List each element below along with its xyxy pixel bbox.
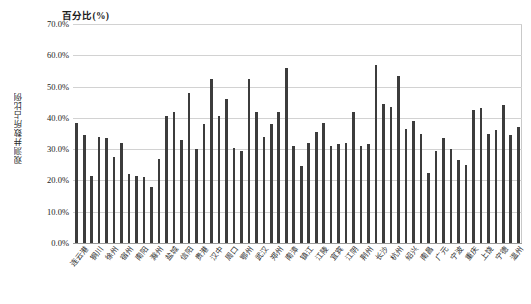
x-axis-tick-label: 宿州 — [120, 245, 136, 262]
x-axis-tick: 盐城 — [165, 245, 181, 262]
y-axis-tick-label: 30.0% — [47, 144, 69, 154]
x-axis-tick: 重庆 — [464, 245, 480, 262]
x-axis-tick-label: 长沙 — [374, 245, 390, 262]
bar — [330, 146, 333, 243]
x-axis-tick: 温州 — [509, 245, 525, 262]
x-axis-tick: 汉中 — [210, 245, 226, 262]
bar — [502, 105, 505, 243]
x-axis-tick: 绍兴 — [404, 245, 420, 262]
plot-area: 0.0%10.0%20.0%30.0%40.0%50.0%60.0%70.0% — [73, 24, 522, 243]
bar — [173, 112, 176, 243]
bar — [420, 134, 423, 244]
bar — [517, 127, 520, 243]
bar — [135, 176, 138, 243]
bar — [472, 110, 475, 243]
bars-layer — [73, 24, 522, 243]
bar — [83, 135, 86, 243]
x-axis-tick: 武汉 — [254, 245, 270, 262]
x-axis-tick-label: 绍兴 — [404, 245, 420, 262]
bar — [203, 124, 206, 243]
x-axis-tick-label: 盐城 — [165, 245, 181, 262]
bar — [113, 157, 116, 243]
bar — [158, 159, 161, 243]
bar — [98, 137, 101, 243]
bar — [75, 123, 78, 243]
x-axis-tick: 南昌 — [419, 245, 435, 262]
y-axis-tick-label: 50.0% — [47, 82, 69, 92]
x-axis-tick: 南阳 — [135, 245, 151, 262]
bar — [337, 144, 340, 243]
bar — [382, 104, 385, 243]
bar — [427, 173, 430, 243]
x-axis-tick-label: 鄂州 — [239, 245, 255, 262]
y-axis-tick-label: 0.0% — [51, 238, 69, 248]
x-axis-tick: 上饶 — [479, 245, 495, 262]
bar — [165, 116, 168, 243]
gridline: 0.0% — [73, 243, 522, 244]
bar — [180, 140, 183, 243]
x-axis-tick-label: 杭州 — [389, 245, 405, 262]
x-axis-tick-label: 信阳 — [180, 245, 196, 262]
x-axis-tick-label: 徐州 — [105, 245, 121, 262]
x-axis-tick: 南漳 — [284, 245, 300, 262]
bar — [375, 65, 378, 243]
x-axis-tick-label: 南阳 — [135, 245, 151, 262]
bar — [412, 121, 415, 243]
y-axis-tick-label: 70.0% — [47, 19, 69, 29]
x-axis-tick: 宿州 — [120, 245, 136, 262]
x-axis-tick: 杭州 — [389, 245, 405, 262]
bar — [150, 187, 153, 243]
x-axis-tick-label: 郑州 — [269, 245, 285, 262]
bar — [120, 143, 123, 243]
bar — [442, 138, 445, 243]
x-axis-labels: 连云港铜川徐州宿州南阳滁州盐城信阳贵港汉中周口鄂州武汉郑州南漳镇江江陵宜宾江阴荆… — [73, 245, 522, 304]
x-axis-tick-label: 重庆 — [464, 245, 480, 262]
bar — [480, 108, 483, 243]
bar — [465, 165, 468, 243]
bar — [487, 134, 490, 244]
bar — [457, 160, 460, 243]
bar — [255, 112, 258, 243]
x-axis-tick: 铜川 — [90, 245, 106, 262]
x-axis-tick-label: 温州 — [509, 245, 525, 262]
bar-chart: 百分比(%) 观测井数所占比例 0.0%10.0%20.0%30.0%40.0%… — [0, 0, 531, 304]
x-axis-tick: 江阴 — [344, 245, 360, 262]
x-axis-tick-label: 贵港 — [195, 245, 211, 262]
x-axis-tick: 宁波 — [449, 245, 465, 262]
bar — [143, 177, 146, 243]
bar — [345, 143, 348, 243]
bar — [390, 107, 393, 243]
x-axis-tick: 宁德 — [494, 245, 510, 262]
x-axis-tick: 周口 — [225, 245, 241, 262]
bar — [292, 146, 295, 243]
bar — [225, 99, 228, 243]
x-axis-tick-label: 南漳 — [284, 245, 300, 262]
bar — [495, 130, 498, 243]
y-axis-tick-label: 20.0% — [47, 175, 69, 185]
x-axis-tick: 荆州 — [359, 245, 375, 262]
y-axis-tick-label: 10.0% — [47, 207, 69, 217]
bar — [360, 146, 363, 243]
x-axis-tick-label: 江阴 — [344, 245, 360, 262]
bar — [322, 123, 325, 243]
y-axis-title: 观测井数所占比例 — [14, 92, 30, 164]
x-axis-tick: 镇江 — [299, 245, 315, 262]
bar — [210, 79, 213, 243]
x-axis-tick: 长沙 — [374, 245, 390, 262]
x-axis-tick-label: 荆州 — [359, 245, 375, 262]
x-axis-tick-label: 江陵 — [314, 245, 330, 262]
y-axis-tick-label: 40.0% — [47, 113, 69, 123]
bar — [248, 79, 251, 243]
bar — [233, 148, 236, 243]
bar — [270, 124, 273, 243]
x-axis-tick-label: 宜宾 — [329, 245, 345, 262]
bar — [397, 76, 400, 243]
x-axis-tick: 徐州 — [105, 245, 121, 262]
x-axis-tick-label: 武汉 — [254, 245, 270, 262]
x-axis-tick-label: 上饶 — [479, 245, 495, 262]
bar — [263, 137, 266, 243]
x-axis-tick-label: 宁德 — [494, 245, 510, 262]
x-axis-tick: 滁州 — [150, 245, 166, 262]
x-axis-tick: 广元 — [434, 245, 450, 262]
bar — [405, 129, 408, 243]
